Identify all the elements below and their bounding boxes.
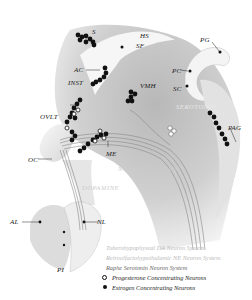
label-sc: SC [173,85,182,93]
label-dopamine: DOPAMINE [82,184,119,191]
label-me: ME [106,150,117,158]
label-ac: AC [74,66,83,74]
label-serotonin: SEROTONIN [176,103,216,110]
label-sf: SF [136,42,144,50]
open-circle-icon [102,275,107,280]
legend-item-progesterone: Progesterone Concentrating Neurons [106,272,252,282]
legend-item-estrogen: Estrogen Concentrating Neurons [106,282,252,292]
label-hs: HS [140,32,149,40]
legend-item-ne-system: Retroolfactohypothalamic NE Neuron Syste… [106,252,252,262]
infundibular-stalk [62,160,95,205]
label-pag: PAG [228,124,241,132]
label-inst: INST [68,79,83,87]
label-al: AL [10,218,19,226]
label-norepinephrine: NOREPINEPHRINE [118,165,181,172]
label-pi: PI [57,266,64,274]
label-pc: PC [172,67,181,75]
filled-circle-icon [103,285,107,289]
label-vmh: VMH [140,82,156,90]
label-s: S [92,28,96,36]
legend: Tuberohypophyseal DA Neuron System Retro… [106,242,252,292]
legend-item-da-system: Tuberohypophyseal DA Neuron System [106,242,252,252]
label-pg: PG [200,36,210,44]
label-ovlt: OVLT [40,113,58,121]
anterior-lobe [30,205,71,270]
label-oc: OC [28,156,38,164]
label-nl: NL [97,218,106,226]
legend-item-serotonin-system: Raphe Serotonin Neuron System [106,262,252,272]
brain-diagram: S HS SF PG AC INST VMH PC SC SEROTONIN P… [0,0,252,300]
